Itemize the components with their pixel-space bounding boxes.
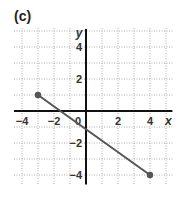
endpoint-dot xyxy=(147,172,153,178)
endpoint-dot xyxy=(35,92,41,98)
y-tick-label: 4 xyxy=(76,41,83,53)
y-tick-label: 2 xyxy=(76,73,82,85)
line-segment xyxy=(38,95,150,175)
y-axis-label: y xyxy=(75,26,84,40)
axis-labels: xy xyxy=(75,26,173,128)
x-tick-label: −2 xyxy=(48,115,61,127)
x-tick-label: 2 xyxy=(115,115,121,127)
y-tick-label: −2 xyxy=(69,137,82,149)
x-axis-label: x xyxy=(164,114,173,128)
y-tick-label: −4 xyxy=(69,169,82,181)
coordinate-plot: −4−2024−4−224 xy xyxy=(0,0,182,197)
x-tick-label: 4 xyxy=(147,115,154,127)
grid-lines xyxy=(14,28,172,185)
data-series xyxy=(35,92,153,178)
x-tick-label: −4 xyxy=(16,115,29,127)
